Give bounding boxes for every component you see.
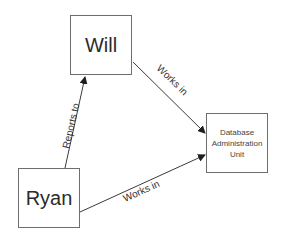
edge-ryan-works-in-dbau: Works in [80,155,205,212]
node-label-ryan: Ryan [26,187,73,210]
node-label-line-2: Administration [212,138,263,149]
node-label-line-1: Database [220,127,254,138]
edge-will-works-in-dbau: Works in [133,62,205,133]
edge-label-ryan-works-in: Works in [121,178,161,204]
node-label-will: Will [85,34,117,57]
node-database-administration-unit: Database Administration Unit [206,113,268,173]
edge-label-will-works-in: Works in [155,63,190,98]
edge-label-reports-to: Reports to [60,102,81,150]
node-ryan: Ryan [18,168,80,228]
edge-ryan-reports-to-will: Reports to [60,77,85,168]
node-label-line-3: Unit [230,149,244,160]
node-will: Will [70,15,132,75]
